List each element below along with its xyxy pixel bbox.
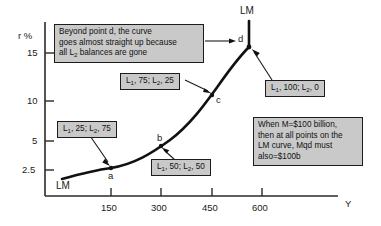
lm-label-top: LM — [240, 6, 254, 16]
money-note-line3: LM curve, Mqd must — [258, 141, 358, 152]
money-note-line4: also=$100b — [258, 152, 358, 163]
callout-a-sub1: 1 — [68, 127, 71, 134]
lm-label-left: LM — [56, 181, 70, 191]
callout-d-mid: , 100; L — [279, 83, 306, 92]
callout-d-pre: L — [271, 83, 276, 92]
callout-a-sub2: 2 — [94, 127, 97, 134]
point-b-marker — [159, 144, 163, 148]
callout-c-mid: , 75; L — [134, 76, 157, 85]
callout-point-b: L1, 50; L2, 50 — [151, 159, 211, 176]
x-axis-title: Y — [345, 199, 351, 209]
callout-b-sub2: 2 — [188, 165, 191, 172]
callout-beyond-d-line2: goes almost straight up because — [59, 38, 199, 49]
point-label-a: a — [108, 171, 113, 181]
callout-c-post: , 25 — [160, 76, 174, 85]
callout-b-mid: , 50; L — [165, 162, 188, 171]
callout-c-sub2: 2 — [157, 79, 160, 86]
callout-money-note: When M=$100 billion, then at all points … — [253, 117, 363, 166]
point-c-marker — [210, 93, 214, 97]
callout-beyond-d-line3-post: balances are gone — [77, 48, 147, 57]
arrowhead-point-b — [162, 147, 170, 153]
money-note-line1: When M=$100 billion, — [258, 120, 358, 131]
point-label-d: d — [238, 34, 243, 44]
callout-beyond-d-line1: Beyond point d, the curve — [59, 27, 199, 38]
callout-beyond-d-line3: all L2 balances are gone — [59, 48, 199, 59]
callout-c-pre: L — [126, 76, 131, 85]
callout-c-sub1: 1 — [131, 79, 134, 86]
point-d-marker — [247, 45, 252, 50]
y-tick-label-5: 5 — [32, 136, 37, 146]
point-label-c: c — [216, 95, 221, 105]
x-tick-label-600: 600 — [252, 203, 268, 213]
callout-a-post: , 75 — [97, 124, 111, 133]
y-tick-label-2.5: 2.5 — [22, 165, 35, 175]
callout-beyond-d-line3-sub: 2 — [74, 51, 77, 58]
callout-a-pre: L — [63, 124, 68, 133]
y-axis-title: r % — [18, 31, 32, 41]
callout-b-sub1: 1 — [162, 165, 165, 172]
arrowhead-beyond-d — [229, 38, 236, 43]
callout-b-pre: L — [157, 162, 162, 171]
callout-d-sub1: 1 — [276, 86, 279, 93]
x-tick-label-450: 450 — [202, 203, 218, 213]
money-note-line2: then at all points on the — [258, 131, 358, 142]
x-tick-label-150: 150 — [101, 203, 117, 213]
callout-point-c: L1, 75; L2, 25 — [120, 73, 180, 90]
point-label-b: b — [157, 133, 162, 143]
callout-d-post: , 0 — [310, 83, 319, 92]
callout-point-a: L1, 25; L2, 75 — [57, 121, 117, 138]
callout-point-d: L1, 100; L2, 0 — [265, 80, 325, 97]
y-tick-label-15: 15 — [27, 48, 38, 58]
callout-beyond-point-d: Beyond point d, the curve goes almost st… — [54, 24, 204, 63]
callout-a-mid: , 25; L — [71, 124, 94, 133]
x-tick-label-300: 300 — [151, 203, 167, 213]
arrowhead-point-c — [203, 88, 211, 93]
lm-curve-figure: r % Y 2.5 5 10 15 150 300 450 600 LM LM … — [0, 0, 381, 226]
y-tick-label-10: 10 — [27, 96, 38, 106]
callout-d-sub2: 2 — [306, 86, 309, 93]
callout-beyond-d-line3-pre: all L — [59, 48, 74, 57]
callout-b-post: , 50 — [191, 162, 205, 171]
